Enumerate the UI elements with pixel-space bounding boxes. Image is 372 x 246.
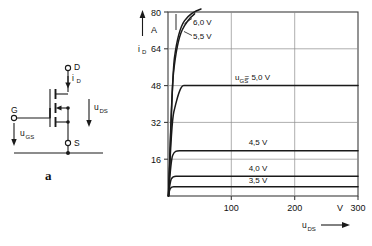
- xtick-label-300: 300: [350, 203, 365, 213]
- x-axis-label-base: u: [302, 220, 307, 230]
- gate-lead-wire: [16, 108, 50, 118]
- uds-label-sub: DS: [100, 108, 108, 114]
- curve-label-6-0v: 6,0 V: [193, 18, 212, 27]
- curve-label-5-0v-rest: = 5,0 V: [245, 73, 271, 82]
- figure: D G S i D u DS u GS a: [0, 0, 372, 246]
- gate-terminal-label: G: [11, 105, 18, 115]
- panel-a-circuit: D G S i D u DS u GS a: [0, 0, 150, 246]
- chart-svg: 16 32 48 64 80 A i D 100 200 300 V: [140, 0, 372, 246]
- y-axis-ticks: [164, 12, 168, 159]
- drain-current-label: i D: [72, 73, 82, 84]
- ytick-label-16: 16: [151, 155, 161, 165]
- gate-terminal-node: [11, 115, 16, 120]
- drain-terminal-node: [65, 65, 70, 70]
- curve-ugs-4-5v: [168, 151, 358, 196]
- panel-a-caption: a: [45, 168, 52, 184]
- x-axis-label: u DS: [302, 220, 316, 232]
- bulk-junction-dot: [66, 106, 70, 110]
- curve-label-5-5v-leader: [184, 32, 192, 36]
- drain-current-label-sub: D: [77, 78, 82, 84]
- ugs-arrow-head: [11, 139, 16, 146]
- ytick-label-64: 64: [151, 44, 161, 54]
- curve-label-4-5v: 4,5 V: [249, 138, 268, 147]
- x-axis-arrow: [321, 222, 350, 228]
- uds-arrow-head: [86, 120, 91, 127]
- drain-current-arrow-head: [65, 83, 70, 89]
- y-axis-arrow: [140, 10, 146, 36]
- source-terminal-node: [65, 140, 70, 145]
- ugs-label: u GS: [20, 128, 34, 140]
- ugs-label-base: u: [20, 128, 25, 138]
- panel-b-chart: 16 32 48 64 80 A i D 100 200 300 V: [140, 0, 372, 246]
- source-terminal-label: S: [74, 138, 80, 148]
- y-axis-label-sub: D: [142, 49, 147, 55]
- curve-label-3-5v: 3,5 V: [249, 176, 268, 185]
- y-axis-label: i D: [138, 44, 147, 55]
- circuit-svg: D G S i D u DS u GS: [0, 0, 150, 246]
- y-axis-unit: A: [151, 25, 157, 35]
- curve-ugs-3-5v: [168, 187, 358, 196]
- x-axis-ticks: [231, 196, 358, 200]
- curve-label-5-5v-group: 5,5 V: [184, 32, 212, 42]
- y-axis-label-base: i: [138, 44, 140, 54]
- bulk-arrow-head: [56, 105, 62, 110]
- drain-terminal-label: D: [74, 62, 80, 72]
- source-rail-dot: [66, 151, 70, 155]
- drain-current-label-base: i: [72, 73, 74, 83]
- ytick-label-80: 80: [151, 8, 161, 18]
- ytick-label-48: 48: [151, 81, 161, 91]
- ugs-label-sub: GS: [26, 134, 35, 140]
- uds-label: u DS: [94, 102, 108, 114]
- curve-label-4-0v: 4,0 V: [249, 164, 268, 173]
- xtick-label-200: 200: [287, 203, 302, 213]
- curve-label-5-0v-group: u GS = 5,0 V: [235, 73, 271, 84]
- uds-label-base: u: [94, 102, 99, 112]
- x-axis-unit: V: [337, 203, 343, 213]
- xtick-label-100: 100: [224, 203, 239, 213]
- x-axis-label-sub: DS: [308, 226, 316, 232]
- ytick-label-32: 32: [151, 118, 161, 128]
- curve-label-5-5v: 5,5 V: [193, 32, 212, 41]
